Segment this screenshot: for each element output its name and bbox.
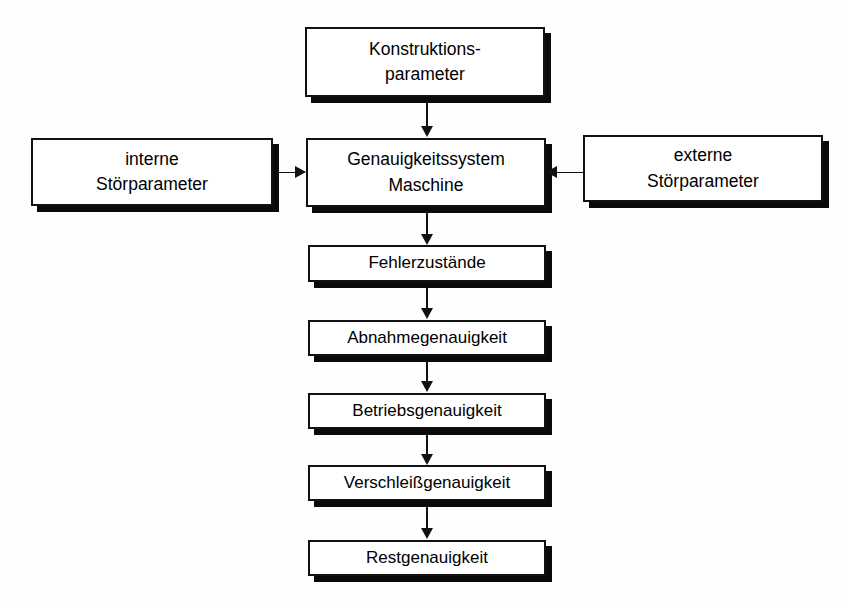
node-betriebsgenauigkeit[interactable]: Betriebsgenauigkeit xyxy=(308,393,546,429)
node-betriebsgenauigkeit-label: Betriebsgenauigkeit xyxy=(352,400,501,422)
node-abnahmegenauigkeit-label: Abnahmegenauigkeit xyxy=(347,327,507,349)
arrowhead-betriebsgenauigkeit-to-verschleissgenauigkeit xyxy=(421,454,433,465)
node-externe-stoerparameter-line2: Störparameter xyxy=(647,170,759,193)
node-genauigkeitssystem-maschine[interactable]: Genauigkeitssystem Maschine xyxy=(306,138,546,207)
connector-externe-stoerparameter-to-genauigkeitssystem xyxy=(557,172,585,174)
node-konstruktionsparameter-line1: Konstruktions- xyxy=(369,38,481,61)
arrowhead-fehlerzustaende-to-abnahmegenauigkeit xyxy=(421,308,433,319)
arrowhead-genauigkeitssystem-to-fehlerzustaende xyxy=(421,234,433,245)
node-restgenauigkeit[interactable]: Restgenauigkeit xyxy=(308,540,546,576)
node-interne-stoerparameter-line2: Störparameter xyxy=(96,173,208,196)
node-konstruktionsparameter[interactable]: Konstruktions- parameter xyxy=(305,27,545,97)
node-genauigkeitssystem-line1: Genauigkeitssystem xyxy=(347,148,505,171)
flow-diagram-canvas: Konstruktions- parameter interne Störpar… xyxy=(0,0,844,603)
arrowhead-konstruktionsparameter-to-genauigkeitssystem xyxy=(421,126,433,137)
node-konstruktionsparameter-line2: parameter xyxy=(385,63,465,86)
node-interne-stoerparameter[interactable]: interne Störparameter xyxy=(31,138,273,206)
node-externe-stoerparameter-line1: externe xyxy=(674,144,732,167)
node-fehlerzustaende-label: Fehlerzustände xyxy=(368,252,485,274)
node-genauigkeitssystem-line2: Maschine xyxy=(389,174,464,197)
arrowhead-externe-stoerparameter-to-genauigkeitssystem xyxy=(546,166,557,178)
arrowhead-abnahmegenauigkeit-to-betriebsgenauigkeit xyxy=(421,381,433,392)
arrowhead-interne-stoerparameter-to-genauigkeitssystem xyxy=(295,166,306,178)
node-abnahmegenauigkeit[interactable]: Abnahmegenauigkeit xyxy=(308,320,546,356)
node-verschleissgenauigkeit-label: Verschleißgenauigkeit xyxy=(344,472,510,494)
node-restgenauigkeit-label: Restgenauigkeit xyxy=(366,547,488,569)
node-interne-stoerparameter-line1: interne xyxy=(125,148,179,171)
node-externe-stoerparameter[interactable]: externe Störparameter xyxy=(583,135,823,202)
node-verschleissgenauigkeit[interactable]: Verschleißgenauigkeit xyxy=(308,465,546,501)
node-fehlerzustaende[interactable]: Fehlerzustände xyxy=(308,245,546,282)
arrowhead-verschleissgenauigkeit-to-restgenauigkeit xyxy=(421,528,433,539)
